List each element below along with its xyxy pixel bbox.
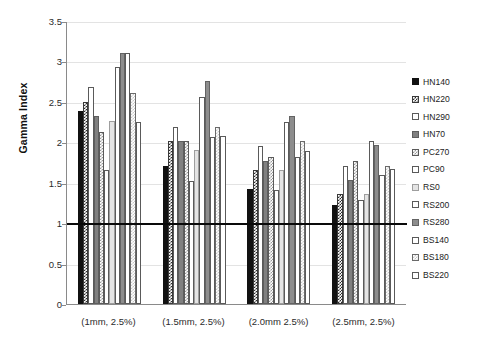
- y-tick-label: 3.5: [18, 17, 62, 27]
- x-axis: (1mm, 2.5%)(1.5mm, 2.5%)(2.0mm 2.5%)(2.5…: [66, 309, 406, 333]
- y-tick-label: 0: [18, 300, 62, 310]
- bar-group: [321, 22, 406, 304]
- legend-swatch-icon: [412, 78, 419, 85]
- reference-line: [67, 223, 407, 225]
- legend-swatch-icon: [412, 237, 419, 244]
- bar: [305, 151, 310, 304]
- legend-item-hn140[interactable]: HN140: [412, 73, 498, 91]
- legend-item-hn290[interactable]: HN290: [412, 108, 498, 126]
- legend-label: PC90: [423, 165, 445, 174]
- legend-swatch-icon: [412, 131, 419, 138]
- legend-swatch-icon: [412, 272, 419, 279]
- gamma-index-bar-chart: Gamma Index 00.511.522.533.5 (1mm, 2.5%)…: [0, 0, 501, 344]
- plot-area: [66, 22, 406, 305]
- legend-label: RS200: [423, 201, 449, 210]
- legend-label: BS180: [423, 253, 449, 262]
- legend-label: HN220: [423, 95, 450, 104]
- y-tick-mark: [62, 305, 66, 306]
- bar: [390, 169, 395, 304]
- bar-groups: [67, 22, 406, 304]
- legend-item-pc270[interactable]: PC270: [412, 143, 498, 161]
- y-tick-label: 3: [18, 58, 62, 68]
- bar-group: [237, 22, 322, 304]
- x-tick-label-3: (2.5mm, 2.5%): [321, 309, 406, 333]
- legend-swatch-icon: [412, 219, 419, 226]
- y-tick-label: 2.5: [18, 98, 62, 108]
- legend-item-bs220[interactable]: BS220: [412, 267, 498, 285]
- legend-label: RS280: [423, 218, 449, 227]
- legend-label: PC270: [423, 148, 449, 157]
- legend-swatch-icon: [412, 254, 419, 261]
- legend-item-rs280[interactable]: RS280: [412, 214, 498, 232]
- legend-label: HN140: [423, 78, 450, 87]
- legend: HN140HN220HN290HN70PC270PC90RS0RS200RS28…: [412, 73, 498, 284]
- x-tick-label-2: (2.0mm 2.5%): [236, 309, 321, 333]
- legend-swatch-icon: [412, 149, 419, 156]
- legend-swatch-icon: [412, 201, 419, 208]
- x-tick-label-1: (1.5mm, 2.5%): [151, 309, 236, 333]
- legend-label: HN70: [423, 130, 445, 139]
- legend-swatch-icon: [412, 113, 419, 120]
- bar-group: [67, 22, 152, 304]
- legend-item-rs200[interactable]: RS200: [412, 196, 498, 214]
- legend-swatch-icon: [412, 184, 419, 191]
- legend-label: BS140: [423, 236, 449, 245]
- legend-label: BS220: [423, 271, 449, 280]
- legend-label: HN290: [423, 113, 450, 122]
- legend-item-hn70[interactable]: HN70: [412, 126, 498, 144]
- legend-swatch-icon: [412, 166, 419, 173]
- y-axis: 00.511.522.533.5: [14, 22, 62, 305]
- legend-item-rs0[interactable]: RS0: [412, 179, 498, 197]
- legend-item-bs140[interactable]: BS140: [412, 231, 498, 249]
- legend-label: RS0: [423, 183, 440, 192]
- x-tick-label-0: (1mm, 2.5%): [66, 309, 151, 333]
- y-tick-label: 0.5: [18, 260, 62, 270]
- legend-swatch-icon: [412, 96, 419, 103]
- y-tick-label: 2: [18, 139, 62, 149]
- bar-group: [152, 22, 237, 304]
- bar: [136, 122, 141, 304]
- bar: [220, 136, 225, 304]
- legend-item-pc90[interactable]: PC90: [412, 161, 498, 179]
- legend-item-hn220[interactable]: HN220: [412, 91, 498, 109]
- y-tick-label: 1.5: [18, 179, 62, 189]
- y-tick-label: 1: [18, 219, 62, 229]
- legend-item-bs180[interactable]: BS180: [412, 249, 498, 267]
